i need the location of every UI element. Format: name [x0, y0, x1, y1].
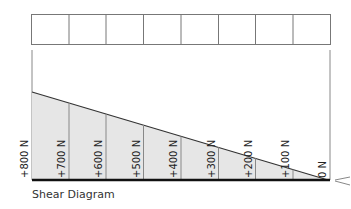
arrow-marker-icon: [335, 177, 350, 185]
diagram-caption: Shear Diagram: [32, 188, 115, 201]
label-200: +200 N: [243, 140, 254, 178]
label-500: +500 N: [131, 140, 142, 178]
label-800: +800 N: [19, 140, 30, 178]
shear-diagram-figure: +800 N +700 N +600 N +500 N +400 N +300 …: [0, 0, 351, 209]
label-600: +600 N: [93, 140, 104, 178]
shear-value-labels: +800 N +700 N +600 N +500 N +400 N +300 …: [19, 140, 328, 178]
label-300: +300 N: [206, 140, 217, 178]
beam-segments: [32, 15, 331, 45]
label-700: +700 N: [56, 140, 67, 178]
label-100: +100 N: [280, 140, 291, 178]
label-400: +400 N: [168, 140, 179, 178]
label-0: 0 N: [317, 161, 328, 178]
